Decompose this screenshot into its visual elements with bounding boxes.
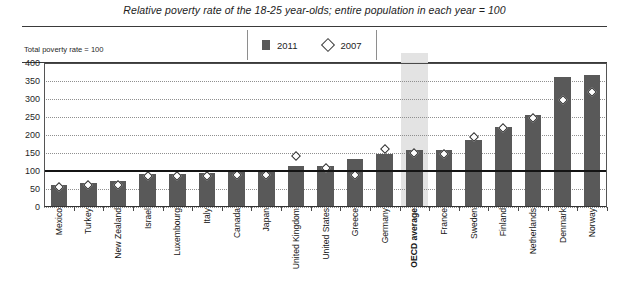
bar-swatch-icon [262,40,270,50]
category-label-italy: Italy [202,208,212,224]
category-label-united-kingdom: United Kingdom [291,208,301,269]
y-tick-label-100: 100 [25,166,40,176]
category-label-norway: Norway [587,208,597,237]
plot-frame [44,63,607,207]
header-divider-top [22,26,607,27]
plot-area: 050100150200250300350400 [44,63,607,207]
legend-item-2011[interactable]: 2011 [262,40,297,51]
x-axis-category-labels: MexicoTurkeyNew ZealandIsraelLuxembourgI… [44,208,607,292]
legend-label-2011: 2011 [277,40,297,51]
y-tick-label-350: 350 [25,76,40,86]
axis-note: Total poverty rate = 100 [24,45,104,54]
category-label-oecd-average: OECD average [409,208,419,268]
category-label-united-states: United States [321,208,331,260]
category-label-germany: Germany [380,208,390,243]
category-label-mexico: Mexico [54,208,64,235]
category-label-turkey: Turkey [83,208,93,234]
category-label-finland: Finland [498,208,508,236]
category-label-luxembourg: Luxembourg [172,208,182,256]
chart-legend: 2011 2007 [247,30,377,60]
chart-figure: Relative poverty rate of the 18-25 year-… [0,0,629,295]
legend-label-2007: 2007 [340,40,361,51]
category-label-netherlands: Netherlands [528,208,538,254]
category-label-israel: Israel [143,208,153,229]
category-label-greece: Greece [350,208,360,236]
legend-item-2007[interactable]: 2007 [323,40,361,51]
x-tick-18 [607,207,608,211]
category-label-canada: Canada [232,208,242,238]
chart-title: Relative poverty rate of the 18-25 year-… [0,4,629,16]
diamond-swatch-icon [321,38,335,52]
y-tick-label-300: 300 [25,94,40,104]
y-tick-label-50: 50 [30,184,40,194]
y-tick-label-200: 200 [25,130,40,140]
category-label-denmark: Denmark [558,208,568,243]
y-tick-label-0: 0 [35,202,40,212]
category-label-sweden: Sweden [469,208,479,239]
category-label-japan: Japan [261,208,271,231]
y-tick-label-250: 250 [25,112,40,122]
category-label-new-zealand: New Zealand [113,208,123,259]
category-label-france: France [439,208,449,235]
y-tick-label-150: 150 [25,148,40,158]
y-tick-label-400: 400 [25,58,40,68]
